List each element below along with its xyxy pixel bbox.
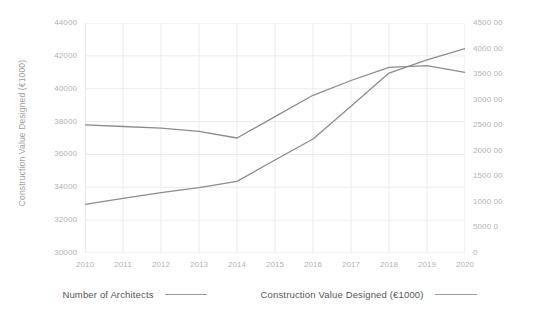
- y-axis-left-tick-label: 42000: [0, 51, 77, 60]
- x-axis-tick-label: 2011: [103, 260, 143, 269]
- y-axis-right-tick-label: 0: [473, 248, 527, 257]
- y-axis-right-tick-label: 3000 00: [473, 95, 527, 104]
- legend-item[interactable]: Construction Value Designed (€1000): [261, 289, 477, 300]
- x-axis-tick-label: 2020: [445, 260, 485, 269]
- y-axis-right-tick-label: 5000 0: [473, 222, 527, 231]
- y-axis-left-tick-label: 40000: [0, 84, 77, 93]
- chart-container: Construction Value Designed (€1000) Numb…: [0, 0, 539, 311]
- grid-lines: [85, 23, 465, 253]
- y-axis-left-tick-label: 44000: [0, 18, 77, 27]
- y-axis-left-tick-label: 34000: [0, 182, 77, 191]
- y-axis-right-tick-label: 4000 00: [473, 44, 527, 53]
- x-axis-tick-label: 2014: [217, 260, 257, 269]
- x-axis-tick-label: 2017: [331, 260, 371, 269]
- legend-line-swatch: [435, 294, 477, 295]
- y-axis-left-title: Construction Value Designed (€1000): [17, 33, 27, 233]
- y-axis-right-tick-label: 2000 00: [473, 146, 527, 155]
- chart-legend: Number of ArchitectsConstruction Value D…: [0, 283, 539, 305]
- y-axis-left-tick-label: 38000: [0, 117, 77, 126]
- x-axis-tick-label: 2016: [293, 260, 333, 269]
- plot-area: [85, 23, 465, 253]
- x-axis-tick-label: 2019: [407, 260, 447, 269]
- x-axis-tick-label: 2015: [255, 260, 295, 269]
- y-axis-right-tick-label: 1000 00: [473, 197, 527, 206]
- y-axis-right-tick-label: 2500 00: [473, 120, 527, 129]
- x-axis-tick-label: 2013: [179, 260, 219, 269]
- legend-line-swatch: [165, 294, 207, 295]
- x-axis-tick-label: 2010: [65, 260, 105, 269]
- y-axis-right-tick-label: 1500 00: [473, 171, 527, 180]
- y-axis-left-tick-label: 30000: [0, 248, 77, 257]
- y-axis-right-tick-label: 3500 00: [473, 69, 527, 78]
- legend-item-label: Number of Architects: [62, 289, 153, 300]
- x-axis-tick-label: 2018: [369, 260, 409, 269]
- legend-item[interactable]: Number of Architects: [62, 289, 206, 300]
- y-axis-right-tick-label: 4500 00: [473, 18, 527, 27]
- y-axis-left-tick-label: 32000: [0, 215, 77, 224]
- plot-svg: [85, 23, 465, 253]
- x-axis-tick-label: 2012: [141, 260, 181, 269]
- legend-item-label: Construction Value Designed (€1000): [261, 289, 424, 300]
- y-axis-left-tick-label: 36000: [0, 149, 77, 158]
